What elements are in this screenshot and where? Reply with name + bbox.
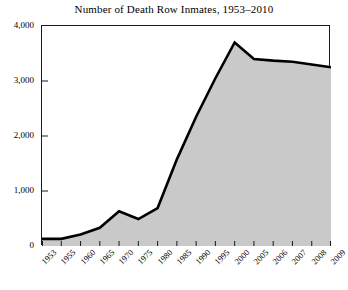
- x-tick-label: 1955: [59, 248, 77, 266]
- x-tick-label: 1953: [40, 248, 58, 266]
- plot-area: [41, 25, 330, 245]
- x-tick-label: 2006: [271, 248, 289, 266]
- x-tick-label: 2005: [252, 248, 270, 266]
- x-tick-label: 1990: [194, 248, 212, 266]
- x-tick-label: 1995: [213, 248, 231, 266]
- x-tick-label: 1960: [79, 248, 97, 266]
- y-tick-label: 2,000: [14, 131, 34, 140]
- y-tick-marks: [42, 81, 48, 191]
- x-tick-label: 2009: [329, 248, 347, 266]
- chart-title: Number of Death Row Inmates, 1953–2010: [0, 3, 348, 15]
- y-tick-label: 4,000: [14, 21, 34, 30]
- chart-figure: Number of Death Row Inmates, 1953–2010 0…: [0, 0, 348, 290]
- area-fill: [42, 43, 331, 247]
- y-tick-label: 1,000: [14, 186, 34, 195]
- y-axis: 01,0002,0003,0004,000: [0, 25, 38, 245]
- x-tick-label: 2000: [233, 248, 251, 266]
- x-tick-label: 1980: [156, 248, 174, 266]
- y-tick-label: 3,000: [14, 76, 34, 85]
- x-tick-label: 1985: [175, 248, 193, 266]
- area-series-svg: [42, 26, 331, 246]
- y-tick-label: 0: [30, 241, 35, 250]
- x-tick-label: 1970: [117, 248, 135, 266]
- x-axis: 1953195519601965197019751980198519901995…: [41, 246, 330, 290]
- x-tick-label: 2007: [290, 248, 308, 266]
- x-tick-label: 2008: [310, 248, 328, 266]
- x-tick-label: 1965: [98, 248, 116, 266]
- x-tick-label: 1975: [136, 248, 154, 266]
